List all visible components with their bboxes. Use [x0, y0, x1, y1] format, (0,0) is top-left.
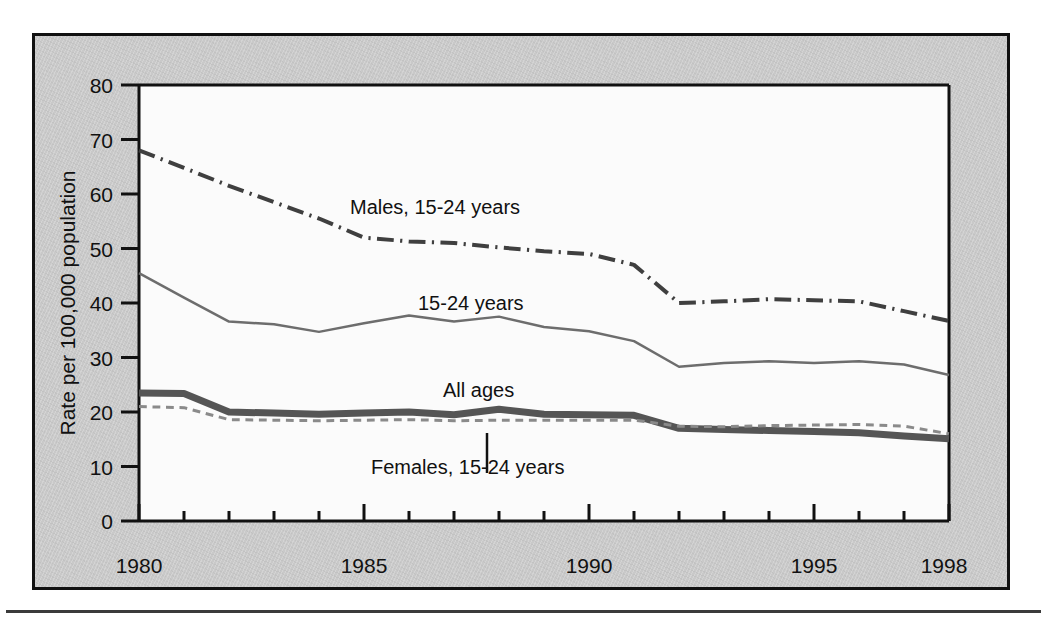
x-tick-label-1995: 1995 [791, 554, 838, 577]
series-label-males: Males, 15-24 years [350, 196, 520, 218]
line-chart: 0 10 20 30 40 50 60 70 80 Rate per 100,0… [35, 36, 1013, 593]
x-tick-label-1990: 1990 [566, 554, 613, 577]
y-tick-label-60: 60 [90, 183, 113, 206]
x-tick-labels: 1980 1985 1990 1995 1998 [116, 554, 968, 577]
x-tick-label-1980: 1980 [116, 554, 163, 577]
y-tick-label-0: 0 [101, 510, 113, 533]
y-tick-label-50: 50 [90, 238, 113, 261]
y-tick-label-40: 40 [90, 292, 113, 315]
y-tick-marks [121, 85, 139, 521]
y-tick-label-30: 30 [90, 347, 113, 370]
y-tick-label-20: 20 [90, 401, 113, 424]
y-tick-labels: 0 10 20 30 40 50 60 70 80 [90, 74, 113, 533]
y-tick-label-10: 10 [90, 456, 113, 479]
chart-panel: 0 10 20 30 40 50 60 70 80 Rate per 100,0… [32, 33, 1010, 590]
series-label-females: Females, 15-24 years [371, 456, 564, 478]
figure-root: 0 10 20 30 40 50 60 70 80 Rate per 100,0… [0, 0, 1047, 622]
y-axis-title: Rate per 100,000 population [56, 170, 79, 435]
x-tick-label-1998: 1998 [921, 554, 968, 577]
y-tick-label-70: 70 [90, 129, 113, 152]
series-label-all-ages: All ages [443, 379, 514, 401]
series-label-15-24: 15-24 years [418, 292, 524, 314]
bottom-divider-rule [6, 610, 1041, 613]
y-tick-label-80: 80 [90, 74, 113, 97]
x-tick-label-1985: 1985 [341, 554, 388, 577]
